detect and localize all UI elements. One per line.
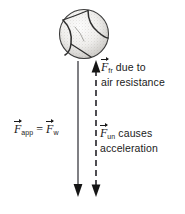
weight-arrow-head-down bbox=[74, 184, 83, 197]
applied-symbol-f: F bbox=[14, 122, 21, 136]
unbalanced-line1-text: causes bbox=[115, 127, 152, 139]
friction-force-label: Ffr due to air resistance bbox=[101, 62, 165, 88]
unbalanced-arrow-head-down bbox=[92, 185, 101, 198]
force-diagram-figure: Ffr due to air resistance Fun causes acc… bbox=[0, 0, 185, 214]
applied-force-equation-label: Fapp=Fw bbox=[14, 124, 59, 139]
weight-symbol-f: F bbox=[46, 122, 53, 136]
unbalanced-line2-text: acceleration bbox=[100, 143, 158, 155]
equals-sign: = bbox=[33, 122, 46, 136]
friction-line2-text: air resistance bbox=[101, 77, 165, 89]
friction-symbol-f: F bbox=[101, 60, 108, 74]
applied-vector-symbol: F bbox=[14, 124, 21, 136]
friction-vector-symbol: F bbox=[101, 62, 108, 74]
applied-subscript: app bbox=[21, 129, 33, 136]
friction-line1-text: due to bbox=[113, 61, 146, 73]
unbalanced-symbol-f: F bbox=[100, 126, 107, 140]
unbalanced-vector-symbol: F bbox=[100, 128, 107, 140]
force-arrows bbox=[0, 0, 185, 214]
weight-subscript: w bbox=[53, 129, 58, 136]
unbalanced-force-label: Fun causes acceleration bbox=[100, 128, 158, 154]
weight-vector-symbol: F bbox=[46, 124, 53, 136]
unbalanced-arrow-head-up bbox=[92, 60, 101, 73]
